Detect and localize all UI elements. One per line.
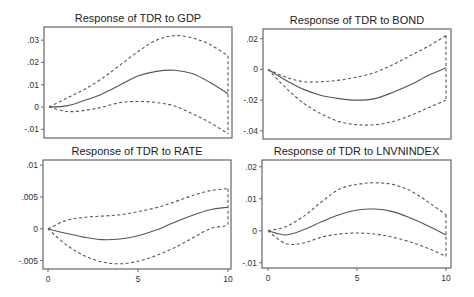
y-tick-label: -.005: [19, 256, 39, 266]
y-tick-label: 0: [252, 226, 257, 236]
y-tick-label: .005: [21, 192, 38, 202]
y-tick-label: .01: [27, 80, 39, 90]
y-tick-label: -.02: [243, 95, 258, 105]
plot-frame: [262, 160, 451, 268]
series-upper: [49, 36, 228, 107]
panel-lnvnindex: Response of TDR to LNVNINDEX.02.010-.010…: [242, 145, 451, 283]
series-upper: [268, 183, 446, 231]
y-tick-label: .01: [245, 194, 257, 204]
series-response: [268, 68, 446, 100]
impulse-response-grid: Response of TDR to GDP.03.02.010-.01 Res…: [0, 0, 474, 297]
series-lower: [49, 101, 228, 133]
panel-title: Response of TDR to LNVNINDEX: [274, 145, 440, 157]
plot-frame: [263, 29, 451, 139]
y-tick-label: -.01: [242, 258, 257, 268]
panel-title: Response of TDR to BOND: [290, 14, 424, 26]
y-tick-label: .01: [26, 160, 38, 170]
y-tick-label: -.04: [243, 126, 258, 136]
panel-title: Response of TDR to GDP: [75, 12, 201, 24]
series-upper: [48, 189, 228, 229]
series-lower: [48, 226, 228, 264]
y-tick-label: -.01: [24, 124, 39, 134]
y-tick-label: 0: [34, 102, 39, 112]
y-tick-label: .02: [27, 57, 39, 67]
x-tick-label: 5: [136, 274, 141, 284]
x-tick-label: 10: [441, 273, 451, 283]
series-response: [48, 207, 228, 240]
series-response: [49, 70, 228, 107]
y-tick-label: 0: [253, 64, 258, 74]
x-tick-label: 10: [223, 274, 233, 284]
y-tick-label: 0: [33, 224, 38, 234]
plot-frame: [44, 27, 232, 138]
x-tick-label: 0: [46, 274, 51, 284]
series-upper: [268, 36, 446, 82]
plot-frame: [43, 160, 231, 269]
panel-title: Response of TDR to RATE: [71, 145, 202, 157]
x-tick-label: 5: [355, 273, 360, 283]
y-tick-label: .02: [245, 162, 257, 172]
panel-gdp: Response of TDR to GDP.03.02.010-.01: [24, 12, 232, 138]
series-lower: [268, 231, 446, 257]
x-tick-label: 0: [266, 273, 271, 283]
panel-bond: Response of TDR to BOND.020-.02-.04: [243, 14, 451, 139]
series-lower: [268, 69, 446, 125]
panel-rate: Response of TDR to RATE.01.0050-.0050510: [19, 145, 233, 284]
y-tick-label: .03: [27, 35, 39, 45]
y-tick-label: .02: [246, 34, 258, 44]
